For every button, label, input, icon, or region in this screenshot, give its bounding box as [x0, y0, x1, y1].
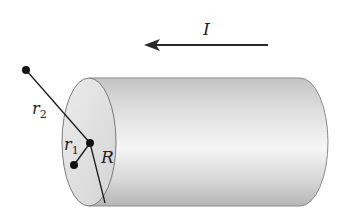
cylinder-body: [89, 78, 328, 206]
inner-field-point: [70, 161, 78, 169]
outer-field-point: [22, 66, 30, 74]
current-label: I: [202, 19, 210, 39]
axis-point: [86, 139, 94, 147]
radius-label: R: [100, 147, 114, 167]
diagram-canvas: I r2 r1 R: [0, 0, 349, 218]
r2-label: r2: [32, 99, 47, 121]
